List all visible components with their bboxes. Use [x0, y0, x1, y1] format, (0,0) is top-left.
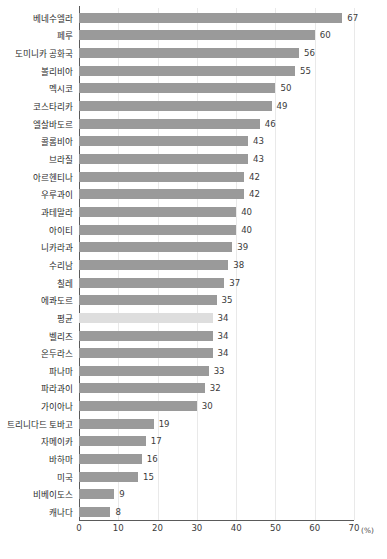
bar-row: 미국15 [79, 468, 354, 486]
bar-value-label: 40 [241, 207, 252, 217]
bar-row: 브라질43 [79, 150, 354, 168]
bar-value-label: 34 [218, 313, 229, 323]
bar: 60 [79, 30, 315, 40]
bar: 9 [79, 489, 114, 499]
bar-value-label: 16 [147, 454, 158, 464]
bar: 67 [79, 13, 342, 23]
bar: 39 [79, 242, 232, 252]
bar-value-label: 43 [253, 154, 264, 164]
bar: 19 [79, 419, 154, 429]
category-label: 베네수엘라 [33, 12, 73, 24]
bar-row: 콜롬비아43 [79, 133, 354, 151]
bar-row: 캐나다8 [79, 503, 354, 521]
bar-row: 엘살바도르46 [79, 115, 354, 133]
bar-value-label: 56 [304, 48, 315, 58]
bar-row: 과테말라40 [79, 203, 354, 221]
bar-value-label: 17 [151, 436, 162, 446]
category-label: 아르헨티나 [33, 171, 73, 183]
category-label: 도미니카 공화국 [15, 47, 73, 59]
plot-area: 베네수엘라67페루60도미니카 공화국56볼리비아55멕시코50코스타리카49엘… [79, 8, 354, 520]
category-label: 캐나다 [49, 506, 73, 518]
bar: 40 [79, 207, 236, 217]
bar-row: 니카라과39 [79, 238, 354, 256]
bar-value-label: 46 [265, 119, 276, 129]
category-label: 파라과이 [41, 382, 73, 394]
x-tick-label: 70 [349, 523, 360, 533]
bar-row: 도미니카 공화국56 [79, 44, 354, 62]
bar-value-label: 9 [119, 489, 124, 499]
bar: 16 [79, 454, 142, 464]
category-label: 파나마 [49, 365, 73, 377]
bar: 17 [79, 436, 146, 446]
bar: 43 [79, 136, 248, 146]
bar-row: 파나마33 [79, 362, 354, 380]
bar-value-label: 49 [277, 101, 288, 111]
bar: 42 [79, 172, 244, 182]
bar-row: 비베이도스9 [79, 486, 354, 504]
category-label: 과테말라 [41, 206, 73, 218]
bar-value-label: 40 [241, 225, 252, 235]
bar: 50 [79, 83, 275, 93]
bar: 46 [79, 119, 260, 129]
category-label: 바하마 [49, 453, 73, 465]
bar-row: 우루과이42 [79, 186, 354, 204]
bar-value-label: 34 [218, 348, 229, 358]
bar-row: 평균34 [79, 309, 354, 327]
x-tick-label: 10 [113, 523, 124, 533]
bar-value-label: 50 [280, 83, 291, 93]
category-label: 브라질 [49, 153, 73, 165]
x-tick-label: 30 [191, 523, 202, 533]
category-label: 미국 [57, 471, 73, 483]
bar-value-label: 15 [143, 472, 154, 482]
bar: 34 [79, 313, 213, 323]
category-label: 코스타리카 [33, 100, 73, 112]
x-tick-label: 20 [152, 523, 163, 533]
x-tick-label: 60 [309, 523, 320, 533]
bar: 32 [79, 383, 205, 393]
bar-value-label: 38 [233, 260, 244, 270]
category-label: 엘살바도르 [33, 118, 73, 130]
bar: 34 [79, 331, 213, 341]
bar-value-label: 35 [222, 295, 233, 305]
category-label: 아이티 [49, 224, 73, 236]
bar-row: 코스타리카49 [79, 97, 354, 115]
bar-row: 가이아나30 [79, 397, 354, 415]
bar: 56 [79, 48, 299, 58]
x-tick-label: 40 [231, 523, 242, 533]
gridline-70 [354, 8, 355, 520]
bar-value-label: 37 [229, 278, 240, 288]
bar-value-label: 8 [115, 507, 120, 517]
category-label: 온두라스 [41, 347, 73, 359]
category-label: 멕시코 [49, 82, 73, 94]
x-tick-label: 50 [270, 523, 281, 533]
bar: 8 [79, 507, 110, 517]
bar-value-label: 60 [320, 30, 331, 40]
bar-value-label: 67 [347, 13, 358, 23]
bar: 30 [79, 401, 197, 411]
category-label: 벨리즈 [49, 330, 73, 342]
bar-row: 베네수엘라67 [79, 9, 354, 27]
category-label: 우루과이 [41, 188, 73, 200]
bar-row: 아이티40 [79, 221, 354, 239]
category-label: 콜롬비아 [41, 135, 73, 147]
bar-row: 볼리비아55 [79, 62, 354, 80]
category-label: 볼리비아 [41, 65, 73, 77]
bar-row: 파라과이32 [79, 380, 354, 398]
x-axis-unit-label: (%) [361, 526, 374, 535]
bar-row: 페루60 [79, 27, 354, 45]
bar-value-label: 33 [214, 366, 225, 376]
bar-value-label: 43 [253, 136, 264, 146]
bar-value-label: 30 [202, 401, 213, 411]
bar-row: 트리니다드 토바고19 [79, 415, 354, 433]
category-label: 자메이카 [41, 435, 73, 447]
bar: 15 [79, 472, 138, 482]
bar: 33 [79, 366, 209, 376]
bar-row: 바하마16 [79, 450, 354, 468]
bar-row: 벨리즈34 [79, 327, 354, 345]
category-label: 에콰도르 [41, 294, 73, 306]
category-label: 칠레 [57, 277, 73, 289]
category-label: 비베이도스 [33, 488, 73, 500]
bar: 35 [79, 295, 217, 305]
bar-row: 자메이카17 [79, 433, 354, 451]
bar: 38 [79, 260, 228, 270]
